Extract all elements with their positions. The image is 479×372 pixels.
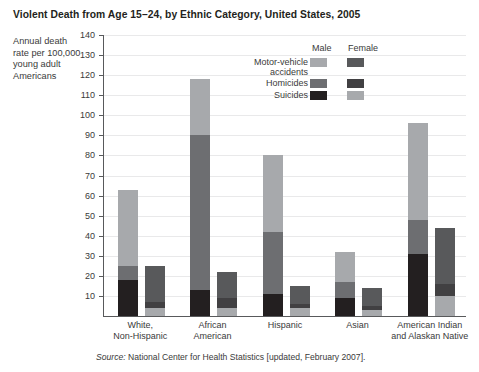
x-category-label-line2: and Alaskan Native	[376, 331, 479, 342]
bar-group	[104, 35, 176, 316]
legend-header-female: Female	[348, 43, 378, 53]
y-tick-label: 70	[85, 171, 95, 181]
y-tick-label: 20	[85, 271, 95, 281]
legend-swatch-female	[347, 79, 364, 88]
bar-segment	[335, 282, 355, 298]
legend-label: Homicides	[188, 78, 308, 88]
y-tick-label: 50	[85, 211, 95, 221]
y-tick-mark	[99, 55, 103, 56]
x-axis-category-labels: White,Non-HispanicAfricanAmericanHispani…	[104, 320, 466, 348]
bar-group	[394, 35, 466, 316]
y-tick-label: 110	[81, 90, 95, 100]
x-category-label-line1: American Indian	[376, 320, 479, 331]
legend: Male Female Motor-vehicleaccidentsHomici…	[244, 43, 404, 105]
source-note: Source: National Center for Health Stati…	[96, 352, 365, 362]
y-tick-mark	[99, 135, 103, 136]
bar-segment	[190, 290, 210, 316]
legend-row: Homicides	[244, 79, 404, 88]
y-axis-tick-labels: 102030405060708090100110120130140	[0, 35, 99, 317]
legend-row: Suicides	[244, 91, 404, 100]
bar-segment	[263, 232, 283, 294]
legend-header-male: Male	[312, 43, 332, 53]
bar-segment	[217, 298, 237, 308]
bar-segment	[263, 155, 283, 231]
bar-segment	[290, 286, 310, 304]
legend-label: Suicides	[188, 90, 308, 100]
bar-segment	[217, 272, 237, 298]
x-category-label-line2: American	[158, 331, 266, 342]
legend-swatch-male	[310, 58, 327, 67]
y-tick-mark	[99, 115, 103, 116]
y-tick-label: 120	[80, 70, 95, 80]
legend-swatch-female	[347, 91, 364, 100]
bar-segment	[435, 284, 455, 296]
bar-segment	[290, 308, 310, 316]
bar-segment	[290, 304, 310, 308]
y-tick-mark	[99, 75, 103, 76]
bar-segment	[145, 266, 165, 302]
y-tick-mark	[99, 196, 103, 197]
y-tick-mark	[99, 276, 103, 277]
bar-segment	[145, 302, 165, 308]
y-tick-label: 140	[80, 30, 95, 40]
legend-swatch-male	[310, 79, 327, 88]
x-axis-line	[103, 316, 466, 317]
y-tick-mark	[99, 35, 103, 36]
bar-segment	[408, 220, 428, 254]
bar-segment	[335, 298, 355, 316]
bar-segment	[263, 294, 283, 316]
bar-segment	[408, 123, 428, 219]
y-tick-mark	[99, 256, 103, 257]
bar-segment	[362, 310, 382, 316]
bar-segment	[408, 254, 428, 316]
y-tick-label: 80	[85, 150, 95, 160]
bar-segment	[118, 190, 138, 266]
y-tick-mark	[99, 95, 103, 96]
page-title: Violent Death from Age 15–24, by Ethnic …	[13, 9, 360, 20]
y-tick-label: 30	[85, 251, 95, 261]
y-tick-label: 40	[85, 231, 95, 241]
legend-swatch-female	[347, 58, 364, 67]
bar-segment	[190, 135, 210, 290]
x-category-label: American Indianand Alaskan Native	[376, 320, 479, 343]
bar-segment	[435, 228, 455, 284]
y-tick-mark	[99, 155, 103, 156]
y-tick-label: 10	[85, 291, 95, 301]
source-text: National Center for Health Statistics [u…	[126, 352, 366, 362]
legend-swatch-male	[310, 91, 327, 100]
bar-segment	[118, 266, 138, 280]
legend-row: Motor-vehicleaccidents	[244, 58, 404, 67]
y-tick-label: 130	[80, 50, 95, 60]
source-prefix: Source:	[96, 352, 126, 362]
legend-label: Motor-vehicle	[188, 57, 308, 67]
bar-segment	[435, 296, 455, 316]
bar-segment	[335, 252, 355, 282]
bar-segment	[362, 288, 382, 306]
y-tick-mark	[99, 176, 103, 177]
bar-segment	[217, 308, 237, 316]
y-tick-label: 60	[85, 191, 95, 201]
bar-segment	[145, 308, 165, 316]
y-tick-label: 100	[80, 110, 95, 120]
y-tick-mark	[99, 236, 103, 237]
bar-segment	[362, 306, 382, 310]
legend-label-line2: accidents	[188, 67, 308, 77]
chart-figure: Violent Death from Age 15–24, by Ethnic …	[0, 0, 479, 372]
y-tick-label: 90	[85, 130, 95, 140]
bar-segment	[118, 280, 138, 316]
y-tick-mark	[99, 296, 103, 297]
y-tick-mark	[99, 216, 103, 217]
